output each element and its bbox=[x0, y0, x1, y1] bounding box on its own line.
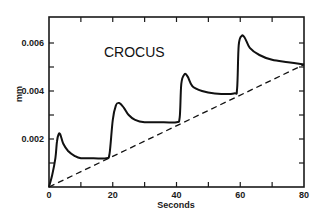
x-tick-label: 0 bbox=[46, 190, 51, 200]
x-axis-title: Seconds bbox=[157, 200, 195, 210]
y-tick-label: 0.004 bbox=[21, 86, 44, 96]
x-tick-label: 40 bbox=[171, 190, 181, 200]
x-tick-label: 60 bbox=[235, 190, 245, 200]
y-tick-label: 0.002 bbox=[21, 134, 44, 144]
ticks: 0204060800.0020.0040.006 bbox=[21, 17, 309, 200]
series-layer bbox=[49, 35, 304, 187]
dashed-reference-line bbox=[49, 65, 304, 187]
chart-title: CROCUS bbox=[104, 44, 165, 60]
x-tick-label: 20 bbox=[108, 190, 118, 200]
response-curve bbox=[49, 35, 304, 187]
plot-frame bbox=[49, 17, 304, 187]
plot-border bbox=[49, 17, 304, 187]
y-axis-title: mm bbox=[14, 86, 24, 102]
chart: 0204060800.0020.0040.006 CROCUS Seconds … bbox=[0, 0, 322, 218]
y-tick-label: 0.006 bbox=[21, 38, 44, 48]
x-tick-label: 80 bbox=[299, 190, 309, 200]
